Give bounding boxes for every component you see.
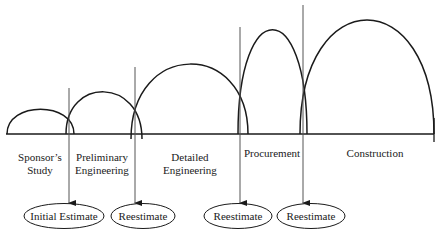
phase-label-line1: Preliminary	[73, 151, 131, 164]
phase-diagram	[0, 0, 440, 237]
estimate-label-initial: Initial Estimate	[24, 210, 104, 223]
estimate-label-reestimate-2: Reestimate	[204, 210, 272, 223]
phase-label-procurement: Procurement	[243, 147, 301, 160]
phase-label-line1: Procurement	[243, 147, 301, 160]
phase-label-line2: Study	[12, 164, 68, 177]
arch-construction	[300, 20, 434, 134]
phase-label-line2: Engineering	[73, 164, 131, 177]
estimate-label-reestimate-3: Reestimate	[277, 210, 345, 223]
phase-label-line1: Sponsor’s	[12, 151, 68, 164]
arch-procurement	[238, 30, 307, 134]
phase-label-line1: Construction	[340, 147, 410, 160]
arch-detailed-engineering	[131, 64, 248, 139]
phase-label-construction: Construction	[340, 147, 410, 160]
phase-label-line2: Engineering	[160, 164, 220, 177]
phase-label-line1: Detailed	[160, 151, 220, 164]
phase-label-preliminary-engineering: Preliminary Engineering	[73, 151, 131, 177]
phase-label-detailed-engineering: Detailed Engineering	[160, 151, 220, 177]
phase-label-sponsors-study: Sponsor’s Study	[12, 151, 68, 177]
arch-sponsors-study	[7, 109, 74, 134]
estimate-label-reestimate-1: Reestimate	[111, 210, 175, 223]
